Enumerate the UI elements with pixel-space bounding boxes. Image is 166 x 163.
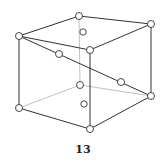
node bbox=[148, 93, 155, 100]
node bbox=[81, 101, 87, 107]
node bbox=[148, 21, 155, 28]
node bbox=[118, 79, 125, 86]
node bbox=[16, 33, 23, 40]
node bbox=[87, 126, 94, 133]
node bbox=[87, 47, 94, 54]
node bbox=[80, 29, 86, 35]
figure-label: 13 bbox=[0, 143, 166, 156]
node bbox=[76, 13, 83, 20]
node bbox=[16, 105, 23, 112]
node bbox=[56, 51, 63, 58]
cube-diagram bbox=[0, 0, 166, 163]
node bbox=[77, 82, 84, 89]
